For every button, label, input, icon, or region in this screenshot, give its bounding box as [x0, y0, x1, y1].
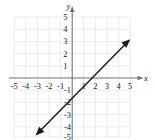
coordinate-plane-svg: x y -5 -4 -3 -2 -1 1 2 3 4 5 5 4 3 2 1 -… — [0, 0, 155, 140]
y-axis-label: y — [66, 1, 71, 11]
y-tick-label: 3 — [63, 37, 67, 46]
x-tick-label: -3 — [34, 82, 41, 91]
y-tick-label: -3 — [64, 111, 71, 120]
x-axis — [9, 76, 144, 81]
x-tick-label: 2 — [93, 82, 97, 91]
y-tick-label: -4 — [64, 123, 72, 132]
y-tick-label: 5 — [63, 13, 67, 22]
y-axis-arrow-icon — [70, 6, 75, 12]
x-tick-label: 4 — [117, 82, 122, 91]
x-tick-label: -4 — [22, 82, 30, 91]
x-axis-arrow-icon — [138, 76, 144, 81]
y-axis — [70, 6, 75, 140]
x-tick-label: 5 — [128, 82, 132, 91]
x-tick-label: -5 — [11, 82, 18, 91]
y-tick-label: 4 — [63, 25, 68, 34]
y-tick-label: 1 — [63, 62, 67, 71]
x-axis-label: x — [143, 73, 148, 83]
x-tick-label: -2 — [46, 82, 53, 91]
y-tick-label: 2 — [63, 50, 67, 59]
graph-figure: x y -5 -4 -3 -2 -1 1 2 3 4 5 5 4 3 2 1 -… — [0, 0, 155, 140]
x-tick-label: 3 — [105, 82, 109, 91]
y-tick-label: -5 — [64, 133, 71, 140]
y-tick-label: -1 — [64, 86, 71, 95]
